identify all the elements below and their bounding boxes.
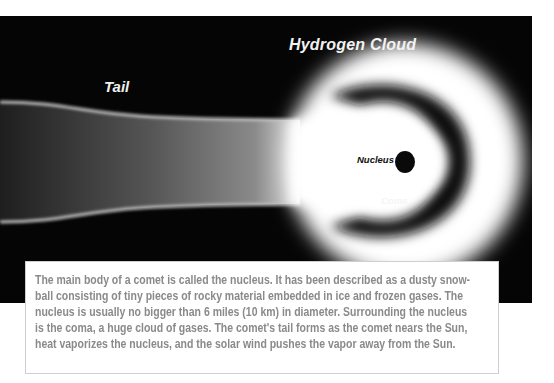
nucleus (395, 151, 415, 173)
comet-diagram: Hydrogen Cloud Tail Nucleus Coma (0, 16, 532, 303)
caption-line: The main body of a comet is called the n… (35, 273, 470, 287)
caption-line: nucleus is usually no bigger than 6 mile… (35, 305, 467, 319)
caption-line: is the coma, a huge cloud of gases. The … (35, 321, 467, 335)
nucleus-label: Nucleus (357, 154, 394, 165)
comet-illustration (0, 16, 532, 303)
caption-line: heat vaporizes the nucleus, and the sola… (35, 337, 456, 351)
coma-label: Coma (381, 195, 407, 206)
tail-label: Tail (104, 78, 129, 95)
caption-box: The main body of a comet is called the n… (25, 261, 499, 374)
caption-text: The main body of a comet is called the n… (35, 272, 491, 352)
hydrogen-cloud-label: Hydrogen Cloud (289, 36, 416, 54)
caption-line: ball consisting of tiny pieces of rocky … (35, 289, 463, 303)
